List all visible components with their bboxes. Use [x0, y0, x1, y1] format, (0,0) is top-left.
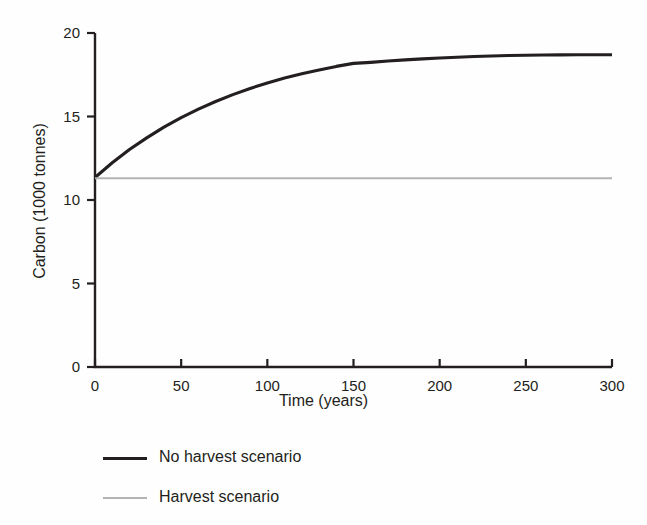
legend-label-harvest-scenario: Harvest scenario	[159, 488, 279, 506]
axis-lines	[95, 33, 612, 367]
y-axis-title: Carbon (1000 tonnes)	[31, 91, 49, 311]
legend-item-no-harvest-scenario[interactable]: No harvest scenario	[103, 437, 523, 477]
x-axis-title: Time (years)	[0, 392, 647, 410]
y-tick-label-0: 0	[40, 358, 80, 375]
y-tick-label-20: 20	[40, 24, 80, 41]
legend-line-swatch-harvest	[103, 490, 147, 504]
data-series-group	[95, 55, 612, 179]
legend-item-harvest-scenario[interactable]: Harvest scenario	[103, 477, 523, 517]
axis-tick-marks	[87, 33, 612, 367]
chart-figure: 05101520 050100150200250300 Time (years)…	[0, 0, 647, 525]
chart-legend: No harvest scenario Harvest scenario	[103, 437, 523, 517]
legend-line-swatch-no-harvest	[103, 450, 147, 464]
legend-label-no-harvest-scenario: No harvest scenario	[159, 448, 301, 466]
